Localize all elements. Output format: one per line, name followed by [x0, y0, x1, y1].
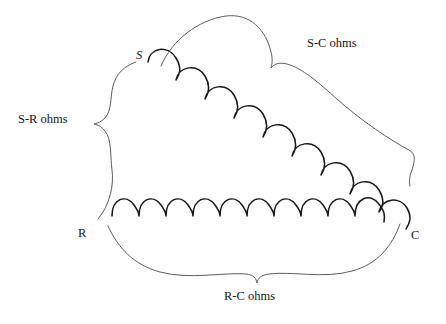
- diagram-vector-layer: [0, 0, 446, 324]
- node-label-r: R: [78, 227, 86, 240]
- r-c-brace: [108, 224, 400, 283]
- s-c-brace: [161, 16, 414, 186]
- s-r-brace: [94, 62, 136, 219]
- brace-label-s-r: S-R ohms: [18, 113, 68, 126]
- brace-label-s-c: S-C ohms: [307, 37, 357, 50]
- diagram-canvas: S R C S-R ohms S-C ohms R-C ohms: [0, 0, 446, 324]
- brace-label-r-c: R-C ohms: [224, 290, 275, 303]
- horizontal-coil-r-to-c: [112, 198, 384, 222]
- node-label-c: C: [411, 229, 419, 242]
- node-label-s: S: [136, 49, 142, 62]
